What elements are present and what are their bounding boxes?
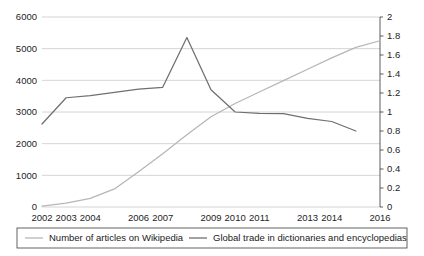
x-axis-tick-labels: 2002200320042006200720092010201120132014… <box>31 212 390 223</box>
right-axis-tick-label: 1.8 <box>387 30 400 41</box>
right-axis-tick-label: 2 <box>387 11 392 22</box>
x-axis-tick-label: 2011 <box>249 212 269 223</box>
left-axis-tick-label: 1000 <box>16 170 37 181</box>
series-line-global-trade <box>42 38 356 131</box>
right-axis-tick-label: 1.4 <box>387 68 400 79</box>
right-axis-tick-label: 0.6 <box>387 144 400 155</box>
left-axis-tick-label: 2000 <box>16 138 37 149</box>
right-axis-tick-label: 1.2 <box>387 87 400 98</box>
x-axis-tick-label: 2010 <box>225 212 246 223</box>
line-chart: 0100020003000400050006000 00.20.40.60.81… <box>0 0 424 256</box>
left-axis-tick-label: 0 <box>32 201 37 212</box>
x-axis-tick-label: 2014 <box>321 212 342 223</box>
x-axis-tick-label: 2016 <box>369 212 390 223</box>
chart-container: 0100020003000400050006000 00.20.40.60.81… <box>0 0 424 256</box>
left-axis-tick-label: 5000 <box>16 43 37 54</box>
right-axis-tick-label: 0.8 <box>387 125 400 136</box>
x-axis-tick-label: 2003 <box>56 212 77 223</box>
legend-label-0: Number of articles on Wikipedia <box>49 232 184 243</box>
right-axis-tick-label: 0 <box>387 201 392 212</box>
left-axis-tick-label: 4000 <box>16 75 37 86</box>
x-axis-tick-label: 2009 <box>200 212 221 223</box>
left-axis-tick-label: 6000 <box>16 11 37 22</box>
left-axis-tick-label: 3000 <box>16 106 37 117</box>
x-axis-tick-label: 2002 <box>31 212 52 223</box>
chart-legend: Number of articles on WikipediaGlobal tr… <box>17 228 407 248</box>
x-axis-tick-label: 2006 <box>128 212 149 223</box>
legend-label-1: Global trade in dictionaries and encyclo… <box>213 232 407 243</box>
x-axis-tick-label: 2004 <box>80 212 101 223</box>
x-axis-tick-label: 2013 <box>297 212 318 223</box>
right-axis-tick-label: 0.4 <box>387 163 400 174</box>
gridlines-group <box>42 17 380 207</box>
series-line-wikipedia <box>42 41 380 206</box>
left-axis-tick-labels: 0100020003000400050006000 <box>16 11 37 212</box>
data-series-group <box>42 38 380 206</box>
right-axis-tick-label: 0.2 <box>387 182 400 193</box>
right-axis-tick-label: 1 <box>387 106 392 117</box>
x-axis-tick-label: 2007 <box>152 212 173 223</box>
right-axis: 00.20.40.60.811.21.41.61.82 <box>380 11 400 212</box>
right-axis-tick-label: 1.6 <box>387 49 400 60</box>
